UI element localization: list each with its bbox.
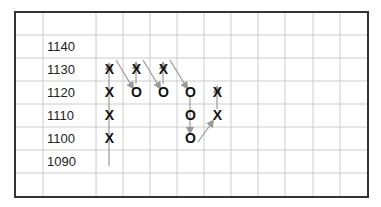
x-mark: X (204, 104, 231, 127)
x-mark: X (96, 58, 123, 81)
x-mark: X (96, 104, 123, 127)
o-mark: O (177, 81, 204, 104)
x-mark: X (96, 81, 123, 104)
price-label-1110: 1110 (47, 104, 74, 127)
x-mark: X (123, 58, 150, 81)
o-mark: O (123, 81, 150, 104)
o-mark: O (150, 81, 177, 104)
x-mark: X (204, 81, 231, 104)
price-label-1140: 1140 (47, 35, 75, 58)
price-label-1120: 1120 (47, 81, 75, 104)
price-label-1100: 1100 (47, 127, 75, 150)
o-mark: O (177, 127, 204, 150)
price-label-1130: 1130 (47, 58, 75, 81)
x-mark: X (96, 127, 123, 150)
o-mark: O (177, 104, 204, 127)
price-label-1090: 1090 (47, 150, 76, 173)
x-mark: X (150, 58, 177, 81)
